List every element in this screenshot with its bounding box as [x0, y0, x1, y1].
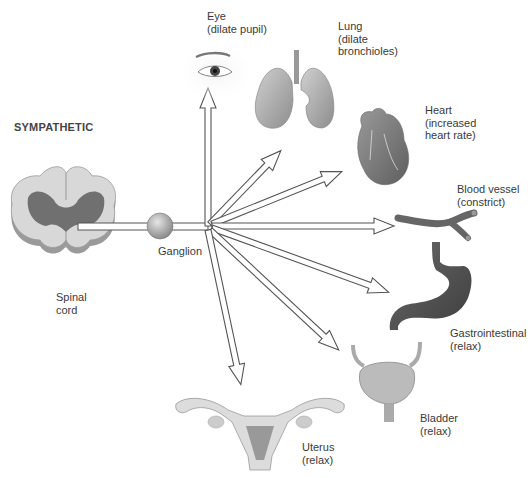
eye-icon	[178, 44, 254, 100]
heart-icon	[358, 108, 409, 184]
diagram-title: SYMPATHETIC	[14, 121, 93, 133]
bladder-label: Bladder (relax)	[420, 412, 458, 437]
diagram-canvas	[0, 0, 528, 478]
arrow-eye	[200, 88, 216, 226]
blood-vessel-label: Blood vessel (constrict)	[457, 183, 519, 208]
arrow-blood-vessel	[212, 218, 394, 234]
bladder-icon	[353, 342, 420, 422]
spinal-cord-label: Spinal cord	[56, 291, 87, 316]
heart-label: Heart (increased heart rate)	[425, 104, 476, 142]
blood-vessel-icon	[398, 211, 477, 241]
spinal-cord-icon	[11, 167, 115, 254]
gastrointestinal-label: Gastrointestinal (relax)	[450, 327, 526, 352]
arrow-bladder	[205, 224, 345, 356]
preganglionic-fiber	[78, 223, 208, 230]
uterus-label: Uterus (relax)	[302, 441, 334, 466]
arrow-lung	[204, 145, 286, 229]
ganglion-icon	[147, 213, 173, 239]
ganglion-label: Ganglion	[158, 245, 202, 258]
eye-label: Eye (dilate pupil)	[207, 10, 267, 35]
arrow-uterus	[200, 228, 249, 386]
stomach-icon	[390, 242, 472, 330]
lung-icon	[255, 50, 334, 128]
arrow-heart	[209, 164, 345, 231]
lung-label: Lung (dilate bronchioles)	[338, 20, 398, 58]
arrow-gastrointestinal	[209, 220, 391, 299]
